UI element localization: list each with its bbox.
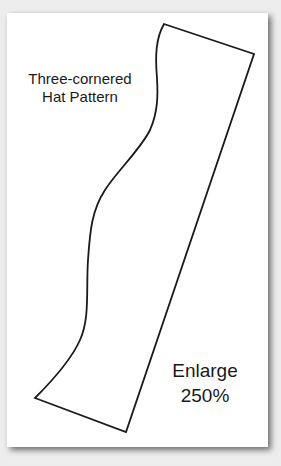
- pattern-title-line1: Three-cornered: [10, 70, 150, 88]
- enlarge-note: Enlarge 250%: [160, 358, 250, 408]
- enlarge-note-line2: 250%: [160, 383, 250, 408]
- pattern-title: Three-cornered Hat Pattern: [10, 70, 150, 106]
- pattern-title-line2: Hat Pattern: [10, 88, 150, 106]
- enlarge-note-line1: Enlarge: [160, 358, 250, 383]
